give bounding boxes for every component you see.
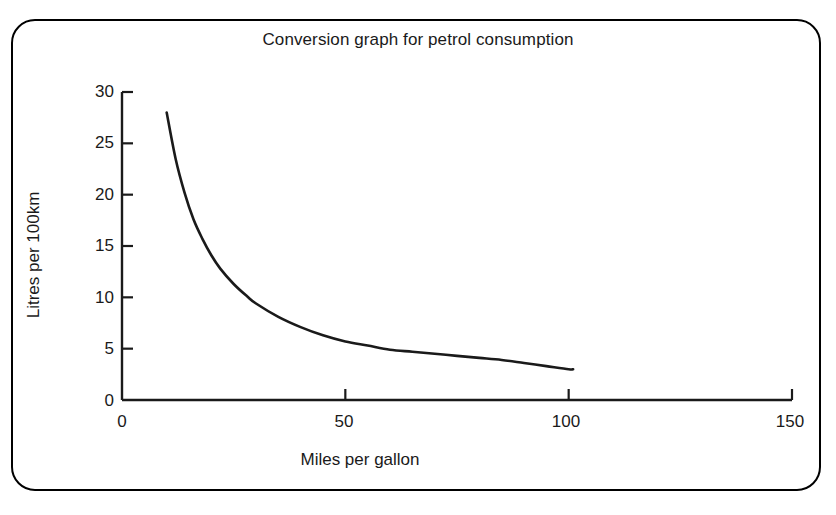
- axes-and-series: [0, 0, 836, 515]
- y-tick-marks: [122, 92, 133, 349]
- series-line-petrol-consumption: [167, 113, 573, 370]
- x-tick-marks: [345, 389, 792, 400]
- plot-area: Conversion graph for petrol consumption …: [0, 0, 836, 515]
- figure-root: Conversion graph for petrol consumption …: [0, 0, 836, 515]
